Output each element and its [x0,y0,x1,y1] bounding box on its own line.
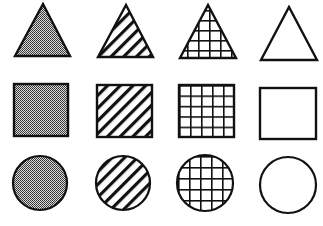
row-squares [14,84,316,139]
triangle-empty [261,7,317,60]
square-diagonal-stripes [97,85,152,137]
triangle-grid [180,5,236,58]
square-grid [179,85,234,137]
circle-grid [177,155,233,211]
shape-pattern-grid: Grid of 12 shapes: 3 rows (triangle, squ… [0,0,323,226]
circle-empty [260,157,316,213]
row-circles [13,155,316,213]
triangle-diagonal-stripes [98,5,153,57]
square-empty [260,88,316,139]
square-stipple [14,84,68,136]
circle-diagonal-stripes [96,156,150,210]
triangle-stipple [15,4,70,56]
circle-stipple [13,156,67,210]
shapes-canvas [0,0,323,226]
row-triangles [15,4,317,60]
